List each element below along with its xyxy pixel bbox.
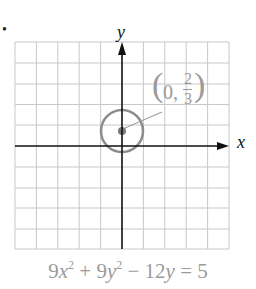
equation: 9x2 + 9y2 − 12y = 5	[0, 258, 256, 284]
coordinate-graph	[0, 0, 256, 289]
y-axis-arrow-icon	[118, 42, 126, 55]
x-axis-arrow-icon	[217, 142, 229, 150]
y-axis-label: y	[117, 22, 125, 43]
x-axis-label: x	[237, 132, 245, 153]
